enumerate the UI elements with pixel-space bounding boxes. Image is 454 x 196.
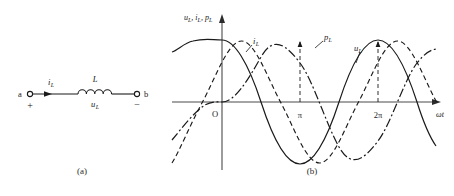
- caption-a: (a): [62, 166, 102, 176]
- current-arrow-icon: [44, 91, 52, 96]
- curve-label-p-l: pL: [323, 32, 333, 43]
- y-axis-label: uL, iL, pL: [184, 13, 213, 23]
- curve-label-p-l-sub: L: [328, 37, 333, 43]
- origin-label: O: [212, 109, 218, 119]
- y-axis-label-p-sub: L: [208, 17, 213, 23]
- polarity-plus-label: +: [27, 100, 33, 111]
- current-label-sub: L: [50, 82, 55, 88]
- curve-label-p-l-text: p: [323, 32, 328, 42]
- leader-i-l: [246, 45, 252, 52]
- y-axis-arrow-icon: [219, 14, 225, 23]
- terminal-a-label: a: [18, 89, 22, 99]
- peak-marker-2pi-arrow-icon: [376, 41, 381, 47]
- polarity-minus-label: −: [134, 99, 140, 110]
- caption-b: (b): [292, 166, 332, 176]
- curve-label-u-l: uL: [354, 43, 363, 54]
- curve-label-i-l-sub: L: [255, 41, 260, 47]
- voltage-label: u: [91, 99, 95, 109]
- inductor-coil-icon: [78, 90, 112, 94]
- leader-p-l: [315, 41, 323, 48]
- xtick-2pi-label: 2π: [374, 110, 383, 120]
- figure-container: a b + − iL L uL: [0, 0, 454, 196]
- x-axis-label: ωt: [436, 110, 445, 119]
- peak-marker-pi-arrow-icon: [298, 41, 303, 47]
- voltage-label-group: uL: [91, 99, 100, 110]
- current-label-group: iL: [48, 77, 55, 88]
- terminal-b-node: [134, 91, 139, 96]
- curve-label-u-l-sub: L: [358, 48, 363, 54]
- inductor-label: L: [92, 74, 98, 84]
- xtick-pi-label: π: [298, 110, 303, 120]
- terminal-b-label: b: [144, 89, 148, 99]
- curve-label-i-l: iL: [253, 36, 260, 47]
- voltage-label-sub: L: [95, 104, 100, 110]
- terminal-a-node: [27, 91, 32, 96]
